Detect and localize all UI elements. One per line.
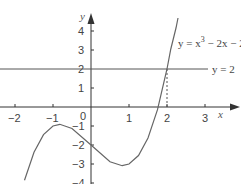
- x-axis-label: x: [217, 108, 223, 120]
- y-axis: y 4 3 2 1 −1 −2 −3 −4: [72, 10, 95, 184]
- y-tick-label: −2: [72, 139, 85, 151]
- x-tick-label: −2: [8, 112, 21, 124]
- y-tick-label: 3: [78, 44, 84, 56]
- line-label: y = 2: [212, 63, 235, 75]
- cubic-graph: −2 −1 0 1 2 3 x y 4 3 2 1 −1 −2 −3 −4 y …: [0, 0, 241, 184]
- y-axis-label: y: [79, 10, 85, 22]
- y-tick-label: −4: [72, 177, 85, 184]
- y-tick-label: −3: [72, 158, 85, 170]
- y-tick-label: 4: [78, 25, 84, 37]
- x-axis-arrow-icon: [230, 104, 240, 111]
- curve-label: y = x3 − 2x − 2: [178, 35, 241, 49]
- x-tick-label: 3: [202, 112, 208, 124]
- y-axis-arrow-icon: [88, 13, 95, 24]
- x-tick-label: 2: [164, 112, 170, 124]
- x-axis: −2 −1 0 1 2 3 x: [0, 104, 240, 125]
- x-tick-label: −1: [46, 112, 59, 124]
- cubic-curve: [25, 18, 179, 180]
- x-tick-label: 1: [126, 112, 132, 124]
- y-tick-label: 1: [78, 82, 84, 94]
